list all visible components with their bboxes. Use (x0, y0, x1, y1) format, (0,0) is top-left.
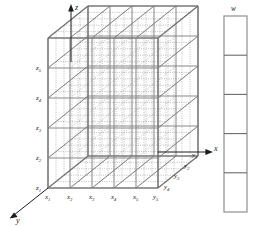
w-panel-label: w (231, 5, 236, 13)
z-tick-labels: z1 z2 z3 z4 z5 (35, 64, 42, 193)
y-tick-3: y3 (173, 172, 180, 181)
z-axis (68, 4, 74, 62)
figure-container: z x y z1 z2 z3 z4 z5 x1 x2 x3 x4 x5 y1 y… (0, 0, 255, 227)
y-axis (10, 188, 48, 219)
z-tick-3: z3 (35, 124, 42, 133)
z-tick-2: z2 (35, 154, 42, 163)
x-axis-label: x (213, 144, 218, 153)
x-tick-5: x5 (132, 193, 139, 202)
lattice-diagram-svg: z x y z1 z2 z3 z4 z5 x1 x2 x3 x4 x5 y1 y… (0, 0, 255, 227)
z-tick-5: z5 (35, 64, 42, 73)
z-tick-4: z4 (35, 94, 42, 103)
y-tick-5: y5 (152, 193, 159, 202)
y-tick-labels: y1 y2 y3 y4 y5 (152, 151, 197, 202)
z-tick-1: z1 (35, 184, 41, 193)
x-tick-4: x4 (110, 193, 117, 202)
w-panel: w (224, 5, 247, 212)
x-tick-1: x1 (44, 193, 50, 202)
z-axis-label: z (74, 3, 79, 12)
w-panel-border (224, 16, 247, 212)
x-tick-3: x3 (88, 193, 95, 202)
y-tick-4: y4 (163, 183, 170, 192)
y-axis-label: y (15, 216, 20, 225)
x-tick-labels: x1 x2 x3 x4 x5 (44, 193, 139, 202)
x-tick-2: x2 (66, 193, 73, 202)
